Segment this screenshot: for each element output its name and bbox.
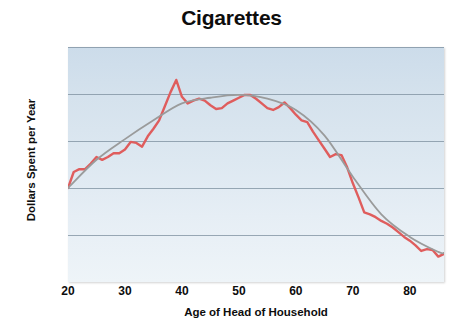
x-axis-tick-label: 70 <box>333 284 373 298</box>
data-series-layer <box>68 80 444 257</box>
x-axis-tick-label: 60 <box>276 284 316 298</box>
y-axis-label: Dollars Spent per Year <box>25 60 37 260</box>
x-axis-label: Age of Head of Household <box>68 306 444 318</box>
x-axis-tick-label: 20 <box>48 284 88 298</box>
chart-title: Cigarettes <box>0 6 463 30</box>
chart-figure: Cigarettes Dollars Spent per Year 00.51.… <box>0 0 463 336</box>
x-axis-tick-label: 40 <box>162 284 202 298</box>
x-axis-tick-label: 30 <box>105 284 145 298</box>
gridlines <box>68 48 444 236</box>
smoothed-trend-line <box>68 95 444 253</box>
x-axis-tick-label: 80 <box>390 284 430 298</box>
plot-area <box>68 47 444 282</box>
observed-data-line <box>68 80 444 257</box>
x-axis-tick-label: 50 <box>219 284 259 298</box>
plot-svg <box>68 47 444 282</box>
